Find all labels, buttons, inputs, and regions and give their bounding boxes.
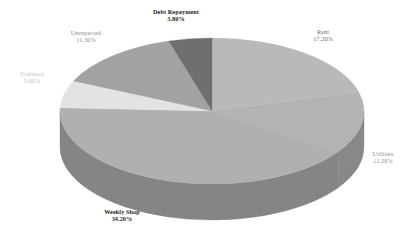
pie-chart-graphic bbox=[0, 0, 418, 246]
pie-slice-tops bbox=[60, 38, 364, 184]
pie-chart: Debt Repayment 3.80% Rent 17.20% Utiliti… bbox=[0, 0, 418, 246]
